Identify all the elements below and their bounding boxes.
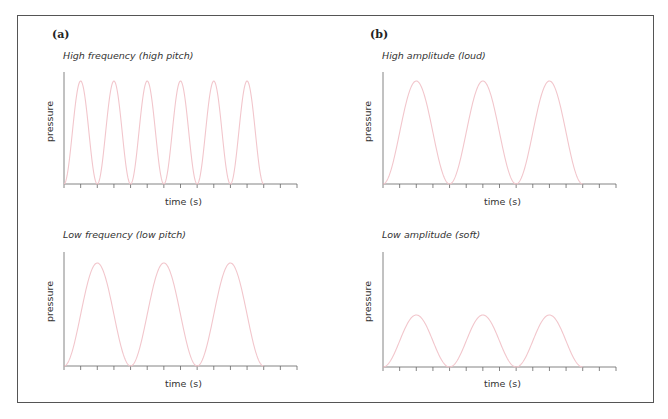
pressure-wave-curve (383, 315, 583, 367)
pressure-wave-curve (64, 263, 264, 366)
plot-high-frequency (64, 72, 297, 188)
plot-low-amplitude (383, 252, 616, 371)
plots-canvas (0, 0, 668, 419)
plot-high-amplitude (383, 72, 616, 188)
plot-low-frequency (64, 252, 297, 370)
pressure-wave-curve (64, 81, 264, 184)
pressure-wave-curve (383, 81, 583, 184)
